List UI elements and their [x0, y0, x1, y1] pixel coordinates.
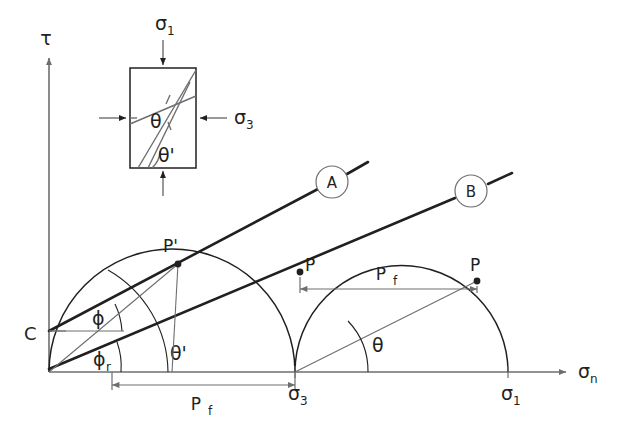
origin-angle-arcs-group: ϕ ϕ r θ' — [49, 270, 187, 374]
plane-direction-tick-upper — [166, 95, 170, 104]
p-label-left: P — [305, 255, 315, 275]
pf-upper-dimension-group: P f — [300, 264, 477, 293]
p-point-marker-left — [297, 269, 304, 276]
axes-group: τ σ n — [40, 27, 597, 386]
pf-lower-label: P — [191, 394, 201, 414]
inset-theta-prime-label: θ' — [158, 144, 175, 166]
inset-theta-label: θ — [150, 110, 162, 132]
p-label-right: P — [470, 255, 480, 275]
envelope-line-a-upper-segment — [347, 162, 368, 174]
envelope-a-label: A — [327, 174, 338, 192]
p-prime-point-marker — [175, 261, 182, 268]
theta-angle-label: θ — [372, 334, 384, 356]
tau-axis-label: τ — [40, 27, 51, 49]
failure-plane-theta — [130, 96, 196, 124]
inset-sigma3-label: σ — [234, 106, 246, 128]
phi-angle-arc — [115, 304, 122, 331]
phi-angle-label: ϕ — [92, 307, 105, 329]
inset-sigma1-label: σ — [155, 12, 167, 34]
theta-angle-group: θ — [348, 321, 384, 372]
tangent-points-group: P' P P — [163, 236, 480, 284]
pf-upper-label-subscript: f — [393, 274, 398, 288]
theta-angle-arc — [348, 321, 368, 372]
radius-line-to-p — [295, 281, 477, 372]
phi-r-angle-label: ϕ — [93, 348, 106, 370]
sigma3-label-subscript: 3 — [300, 394, 308, 408]
pf-upper-label: P — [376, 264, 386, 284]
envelope-line-b-upper-segment — [488, 173, 512, 184]
p-point-marker-right — [474, 278, 481, 285]
principal-stress-labels-group: σ 3 σ 1 — [288, 382, 521, 408]
sigma-n-axis-label-subscript: n — [590, 372, 598, 386]
envelope-b-label: B — [466, 183, 476, 201]
p-prime-label: P' — [163, 236, 178, 256]
sigma-n-axis-label: σ — [578, 360, 590, 382]
sigma1-label: σ — [501, 382, 513, 404]
diagram-canvas: τ σ n A B C ϕ — [0, 0, 629, 428]
inset-specimen-group: σ 1 σ 3 θ θ' — [99, 12, 254, 196]
inset-sigma1-label-subscript: 1 — [167, 24, 175, 38]
failure-envelopes-group: A B — [49, 162, 512, 369]
cohesion-label: C — [24, 323, 37, 344]
phi-r-angle-label-subscript: r — [106, 360, 111, 374]
sigma3-label: σ — [288, 382, 300, 404]
inset-sigma3-label-subscript: 3 — [246, 118, 254, 132]
mohr-circle-diagram: τ σ n A B C ϕ — [0, 0, 629, 428]
phi-r-angle-arc — [117, 342, 121, 372]
pf-lower-label-subscript: f — [208, 404, 213, 418]
sigma1-label-subscript: 1 — [513, 394, 521, 408]
pf-lower-dimension-group: P f — [112, 372, 295, 418]
radius-line-to-p-prime — [49, 264, 178, 372]
